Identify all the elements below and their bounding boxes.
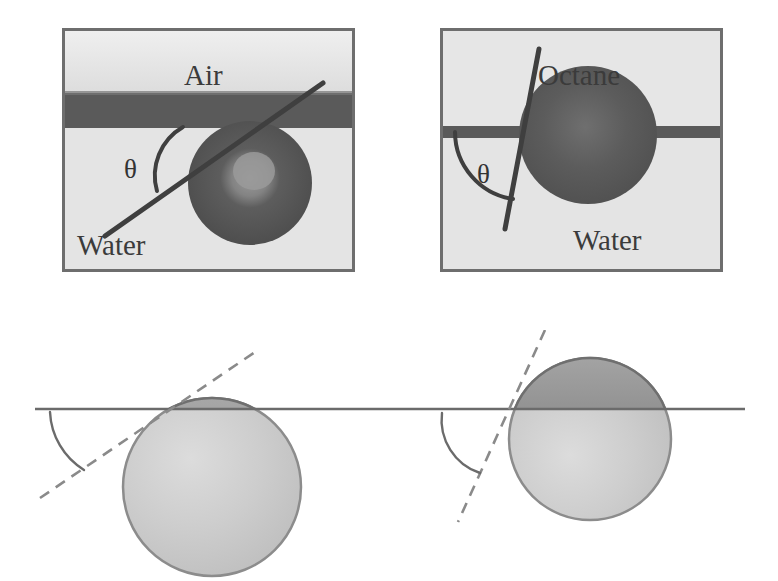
- theta-label-left: θ: [124, 156, 137, 183]
- figure-root: Air θ Water Oc: [0, 0, 778, 581]
- theta-label-right: θ: [477, 161, 490, 188]
- particle-highlight: [233, 152, 275, 190]
- schematic-sphere-left: [123, 398, 301, 576]
- water-label-right: Water: [573, 226, 642, 255]
- air-water-interface-band: [65, 93, 352, 128]
- angle-arc-schematic-right: [442, 413, 480, 473]
- octane-water-schematic: [380, 330, 778, 581]
- octane-label: Octane: [538, 61, 620, 90]
- octane-water-photo: Octane θ Water: [440, 28, 723, 272]
- air-label: Air: [184, 61, 223, 90]
- air-water-schematic: [0, 330, 380, 581]
- water-label-left: Water: [77, 231, 146, 260]
- angle-arc-schematic-left: [50, 412, 84, 470]
- air-water-photo: Air θ Water: [62, 28, 355, 272]
